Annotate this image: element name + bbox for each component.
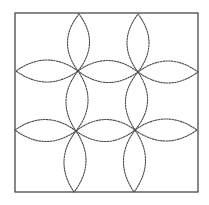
petal-stitch-line: [138, 61, 198, 83]
quilting-block-diagram: [0, 0, 209, 205]
petal-stitch-line: [127, 14, 149, 72]
petal-stitch-line: [76, 119, 135, 141]
petal-stitch-line: [125, 72, 147, 130]
petal-stitch-line: [135, 119, 197, 141]
petal-stitch-line: [78, 60, 138, 82]
petal-stitch-line: [123, 130, 145, 192]
block-border: [15, 13, 198, 192]
petal-stitch-line: [15, 119, 76, 141]
petal-stitch-line: [67, 14, 89, 71]
petal-stitch-line: [16, 60, 78, 82]
flower-motifs: [15, 14, 198, 192]
petal-stitch-line: [66, 71, 88, 131]
petal-stitch-line: [64, 131, 86, 192]
